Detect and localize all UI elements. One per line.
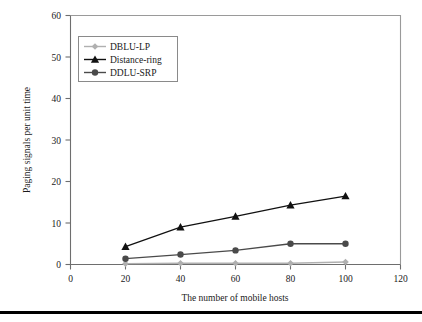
y-tick-label: 50: [52, 53, 62, 63]
y-tick-label: 40: [52, 94, 62, 104]
figure-container: 0 10 20 30 40 50 60 0 20 40 60 80 100 12…: [0, 0, 422, 322]
x-tick-label: 80: [286, 274, 296, 284]
series-layer: [121, 192, 349, 267]
y-tick-label: 20: [52, 177, 62, 187]
x-tick-label: 0: [68, 274, 73, 284]
footer-rule: [0, 311, 422, 314]
legend-label: DDLU-SRP: [110, 68, 156, 78]
x-tick-label: 60: [231, 274, 241, 284]
series-distance-ring: [121, 192, 349, 250]
series-line: [126, 196, 346, 247]
y-tick-label: 10: [52, 219, 62, 229]
data-point-circle-icon: [232, 247, 238, 253]
y-tick-label: 0: [56, 260, 61, 270]
y-axis-title: Paging signals per unit time: [22, 87, 32, 193]
x-tick-label: 120: [393, 274, 408, 284]
data-point-circle-icon: [287, 241, 293, 247]
y-axis-tick-labels: 0 10 20 30 40 50 60: [52, 11, 62, 270]
paging-signals-line-chart: 0 10 20 30 40 50 60 0 20 40 60 80 100 12…: [0, 0, 422, 322]
legend-label: Distance-ring: [110, 55, 162, 65]
data-point-triangle-icon: [341, 192, 349, 199]
x-axis-title: The number of mobile hosts: [181, 293, 288, 303]
x-tick-label: 100: [338, 274, 353, 284]
data-point-circle-icon: [122, 255, 128, 261]
data-point-diamond-icon: [177, 260, 184, 267]
series-ddlu-srp: [122, 241, 348, 262]
y-axis-ticks: [66, 16, 71, 265]
y-tick-label: 30: [52, 136, 62, 146]
data-point-circle-icon: [342, 241, 348, 247]
data-point-diamond-icon: [232, 260, 239, 267]
x-tick-label: 40: [176, 274, 186, 284]
y-tick-label: 60: [52, 11, 62, 21]
legend-label: DBLU-LP: [110, 42, 150, 52]
x-axis-tick-labels: 0 20 40 60 80 100 120: [68, 274, 408, 284]
x-tick-label: 20: [121, 274, 131, 284]
legend-circle-icon: [92, 69, 98, 75]
series-dblu-lp: [122, 259, 349, 267]
data-point-circle-icon: [177, 251, 183, 257]
data-point-diamond-icon: [287, 260, 294, 267]
